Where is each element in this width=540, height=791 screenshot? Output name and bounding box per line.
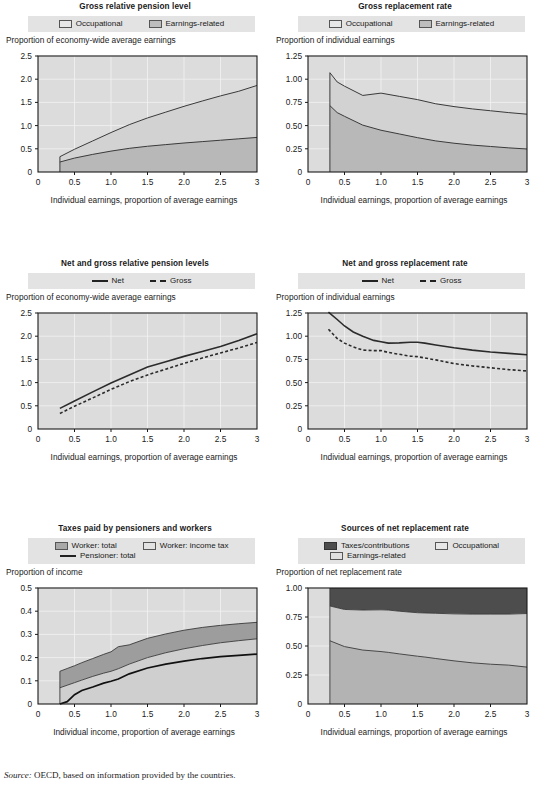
legend-item-taxes-contributions: Taxes/contributions bbox=[324, 541, 409, 551]
x-axis-label: Individual income, proportion of average… bbox=[18, 727, 270, 737]
legend-item-occupational: Occupational bbox=[329, 19, 393, 29]
svg-text:2.0: 2.0 bbox=[20, 331, 32, 341]
svg-text:1.0: 1.0 bbox=[375, 709, 387, 719]
source-prefix: Source: bbox=[4, 770, 32, 780]
svg-text:0.2: 0.2 bbox=[20, 653, 32, 663]
legend-line-solid-icon bbox=[60, 555, 76, 557]
chart-plot: 00.51.01.52.02.500.51.01.52.02.53 bbox=[0, 46, 270, 194]
x-axis-label: Individual earnings, proportion of avera… bbox=[288, 195, 540, 205]
panel-gross-replacement-rate: Gross replacement rate Occupational Earn… bbox=[270, 2, 540, 205]
legend-line-dashed-icon bbox=[420, 280, 436, 282]
svg-text:1.25: 1.25 bbox=[286, 308, 303, 318]
legend-item-gross: Gross bbox=[420, 276, 461, 286]
chart-plot: 00.250.500.751.001.2500.51.01.52.02.53 bbox=[270, 46, 540, 194]
svg-text:0: 0 bbox=[306, 177, 311, 187]
chart-title: Sources of net replacement rate bbox=[270, 524, 540, 534]
svg-text:0.25: 0.25 bbox=[286, 144, 303, 154]
svg-text:1.00: 1.00 bbox=[286, 583, 303, 593]
svg-text:1.5: 1.5 bbox=[412, 177, 424, 187]
chart-legend: Net Gross bbox=[298, 273, 525, 289]
legend-label: Taxes/contributions bbox=[341, 541, 409, 551]
svg-text:0: 0 bbox=[36, 709, 41, 719]
svg-text:0.4: 0.4 bbox=[20, 606, 32, 616]
legend-item-net: Net bbox=[362, 276, 394, 286]
legend-item-worker-income-tax: Worker: income tax bbox=[143, 541, 229, 551]
y-axis-label: Proportion of income bbox=[6, 567, 270, 577]
legend-label: Worker: income tax bbox=[160, 541, 229, 551]
chart-legend: Net Gross bbox=[28, 273, 255, 289]
chart-legend: Worker: total Worker: income tax Pension… bbox=[28, 538, 255, 564]
svg-text:0.5: 0.5 bbox=[20, 583, 32, 593]
svg-text:2.5: 2.5 bbox=[215, 709, 227, 719]
legend-swatch-occupational-icon bbox=[435, 542, 448, 550]
svg-text:0: 0 bbox=[306, 709, 311, 719]
svg-text:0.3: 0.3 bbox=[20, 629, 32, 639]
svg-text:0.5: 0.5 bbox=[339, 709, 351, 719]
svg-text:1.0: 1.0 bbox=[105, 434, 117, 444]
panel-sources-of-net-replacement-rate: Sources of net replacement rate Taxes/co… bbox=[270, 524, 540, 737]
legend-swatch-worker-total-icon bbox=[55, 542, 68, 550]
svg-text:0.25: 0.25 bbox=[286, 401, 303, 411]
svg-text:1.25: 1.25 bbox=[286, 51, 303, 61]
svg-text:1.0: 1.0 bbox=[375, 434, 387, 444]
chart-title: Taxes paid by pensioners and workers bbox=[0, 524, 270, 534]
panel-net-and-gross-replacement-rate: Net and gross replacement rate Net Gross… bbox=[270, 259, 540, 462]
svg-text:0.5: 0.5 bbox=[20, 401, 32, 411]
svg-text:3: 3 bbox=[255, 709, 260, 719]
svg-text:2.5: 2.5 bbox=[215, 434, 227, 444]
chart-title: Gross replacement rate bbox=[270, 2, 540, 12]
legend-label: Gross bbox=[440, 276, 461, 286]
legend-swatch-taxes-contributions-icon bbox=[324, 542, 337, 550]
x-axis-label: Individual earnings, proportion of avera… bbox=[18, 452, 270, 462]
svg-text:2.0: 2.0 bbox=[178, 177, 190, 187]
legend-swatch-worker-income-tax-icon bbox=[143, 542, 156, 550]
svg-text:0.50: 0.50 bbox=[286, 121, 303, 131]
panel-taxes-paid-by-pensioners-and-workers: Taxes paid by pensioners and workers Wor… bbox=[0, 524, 270, 737]
panel-gross-relative-pension-level: Gross relative pension level Occupationa… bbox=[0, 2, 270, 205]
svg-text:2.5: 2.5 bbox=[485, 434, 497, 444]
legend-item-pensioner-total: Pensioner: total bbox=[60, 551, 136, 561]
svg-text:0: 0 bbox=[297, 424, 302, 434]
svg-text:0.5: 0.5 bbox=[20, 144, 32, 154]
legend-swatch-earnings-related-icon bbox=[419, 20, 432, 28]
svg-text:0.5: 0.5 bbox=[69, 434, 81, 444]
svg-text:2.0: 2.0 bbox=[448, 434, 460, 444]
svg-text:0: 0 bbox=[27, 167, 32, 177]
svg-text:0: 0 bbox=[297, 699, 302, 709]
svg-text:1.5: 1.5 bbox=[20, 354, 32, 364]
chart-title: Net and gross relative pension levels bbox=[0, 259, 270, 269]
legend-item-earnings-related: Earnings-related bbox=[330, 551, 406, 561]
svg-text:1.5: 1.5 bbox=[142, 434, 154, 444]
legend-line-dashed-icon bbox=[150, 280, 166, 282]
figure-page: Gross relative pension level Occupationa… bbox=[0, 0, 540, 791]
svg-text:1.0: 1.0 bbox=[105, 177, 117, 187]
svg-text:1.5: 1.5 bbox=[20, 97, 32, 107]
svg-text:0: 0 bbox=[27, 424, 32, 434]
svg-text:1.5: 1.5 bbox=[142, 177, 154, 187]
svg-text:0: 0 bbox=[27, 699, 32, 709]
svg-text:0.5: 0.5 bbox=[339, 177, 351, 187]
svg-text:1.00: 1.00 bbox=[286, 331, 303, 341]
legend-item-worker-total: Worker: total bbox=[55, 541, 117, 551]
svg-text:2.0: 2.0 bbox=[448, 177, 460, 187]
chart-plot: 00.10.20.30.40.500.51.01.52.02.53 bbox=[0, 578, 270, 726]
svg-text:3: 3 bbox=[525, 709, 530, 719]
svg-text:0.5: 0.5 bbox=[69, 709, 81, 719]
y-axis-label: Proportion of individual earnings bbox=[276, 35, 540, 45]
chart-title: Net and gross replacement rate bbox=[270, 259, 540, 269]
x-axis-label: Individual earnings, proportion of avera… bbox=[18, 195, 270, 205]
legend-label: Earnings-related bbox=[436, 19, 495, 29]
svg-text:1.5: 1.5 bbox=[142, 709, 154, 719]
legend-item-earnings-related: Earnings-related bbox=[149, 19, 225, 29]
svg-text:2.5: 2.5 bbox=[215, 177, 227, 187]
svg-text:1.0: 1.0 bbox=[105, 709, 117, 719]
source-text: OECD, based on information provided by t… bbox=[34, 770, 236, 780]
panel-net-and-gross-relative-pension-levels: Net and gross relative pension levels Ne… bbox=[0, 259, 270, 462]
y-axis-label: Proportion of economy-wide average earni… bbox=[6, 35, 270, 45]
svg-text:0.75: 0.75 bbox=[286, 97, 303, 107]
svg-text:1.0: 1.0 bbox=[375, 177, 387, 187]
legend-label: Net bbox=[382, 276, 394, 286]
svg-text:1.00: 1.00 bbox=[286, 74, 303, 84]
legend-label: Pensioner: total bbox=[80, 551, 136, 561]
legend-label: Gross bbox=[170, 276, 191, 286]
